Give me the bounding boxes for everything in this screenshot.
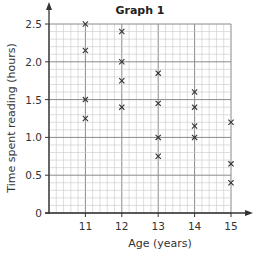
y-tick-label: 2.0 bbox=[25, 56, 42, 68]
scatter-chart: Graph 1 00.51.01.52.02.5 1112131415 Age … bbox=[0, 0, 259, 257]
x-tick-label: 15 bbox=[224, 220, 237, 232]
x-tick-label: 11 bbox=[79, 220, 92, 232]
y-axis-label: Time spent reading (hours) bbox=[5, 43, 18, 193]
chart-title: Graph 1 bbox=[115, 4, 164, 17]
y-axis-ticks: 00.51.01.52.02.5 bbox=[25, 18, 49, 219]
grid bbox=[49, 24, 231, 213]
y-tick-label: 2.5 bbox=[25, 18, 42, 30]
x-tick-label: 12 bbox=[115, 220, 128, 232]
x-axis-ticks: 1112131415 bbox=[79, 213, 238, 232]
x-tick-label: 14 bbox=[188, 220, 202, 232]
axes bbox=[45, 2, 253, 216]
y-tick-label: 1.0 bbox=[25, 131, 42, 143]
y-tick-label: 0 bbox=[35, 207, 42, 219]
x-axis-label: Age (years) bbox=[128, 237, 192, 250]
y-tick-label: 1.5 bbox=[25, 94, 42, 106]
y-tick-label: 0.5 bbox=[25, 169, 42, 181]
x-tick-label: 13 bbox=[152, 220, 165, 232]
